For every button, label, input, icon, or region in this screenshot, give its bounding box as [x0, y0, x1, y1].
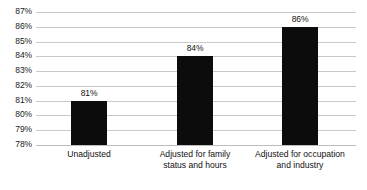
value-label-adjusted-occupation-industry: 86% — [264, 15, 336, 24]
y-tick-label-87: 87% — [0, 7, 32, 16]
y-tick-label-79: 79% — [0, 125, 32, 134]
y-tick-label-78: 78% — [0, 140, 32, 149]
value-label-unadjusted: 81% — [53, 89, 125, 98]
y-tick-label-82: 82% — [0, 81, 32, 90]
x-axis-label-occupation-line-1: Adjusted for occupation — [243, 149, 357, 160]
x-axis-label-unadjusted-line-1: Unadjusted — [35, 149, 143, 160]
x-axis-label-adjusted-family-status-hours: Adjusted for family status and hours — [141, 149, 249, 171]
bar-unadjusted — [71, 101, 107, 145]
value-label-adjusted-family-status-hours: 84% — [159, 44, 231, 53]
x-axis-label-family-line-2: status and hours — [141, 160, 249, 171]
bar-adjusted-occupation-industry — [282, 27, 318, 145]
y-tick-label-83: 83% — [0, 66, 32, 75]
y-tick-label-84: 84% — [0, 51, 32, 60]
gridline-78-baseline: 78% — [36, 145, 356, 146]
plot-area: 87% 86% 85% 84% 83% 82% 81% 80% 79% 78% — [36, 12, 356, 145]
x-axis-label-adjusted-occupation-industry: Adjusted for occupation and industry — [243, 149, 357, 171]
bar-chart: 87% 86% 85% 84% 83% 82% 81% 80% 79% 78% — [0, 0, 367, 190]
x-axis-label-family-line-1: Adjusted for family — [141, 149, 249, 160]
y-tick-label-86: 86% — [0, 22, 32, 31]
x-axis-label-unadjusted: Unadjusted — [35, 149, 143, 160]
bar-adjusted-family-status-hours — [177, 56, 213, 145]
y-tick-label-85: 85% — [0, 37, 32, 46]
y-tick-label-80: 80% — [0, 110, 32, 119]
x-axis-label-occupation-line-2: and industry — [243, 160, 357, 171]
y-tick-label-81: 81% — [0, 96, 32, 105]
gridline-87: 87% — [36, 12, 356, 13]
